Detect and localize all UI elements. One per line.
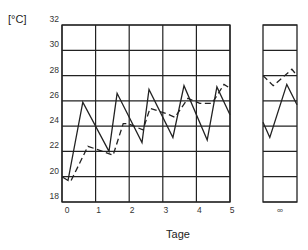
x-tick-infinity: ∞ [277, 205, 283, 215]
x-tick-4: 4 [197, 205, 202, 215]
x-tick-5: 5 [230, 205, 235, 215]
y-tick-24: 24 [50, 115, 60, 125]
series-solid [62, 86, 230, 181]
infinity-panel-grid [263, 25, 297, 202]
x-tick-0: 0 [65, 205, 70, 215]
y-tick-22: 22 [50, 140, 60, 150]
infinity-series-dashed [263, 69, 297, 85]
x-tick-1: 1 [96, 205, 101, 215]
infinity-panel-frame [263, 25, 297, 202]
y-tick-labels: 1820222426283032 [50, 14, 60, 201]
infinity-series-solid [263, 84, 297, 137]
x-axis-label: Tage [166, 228, 190, 240]
x-tick-3: 3 [163, 205, 168, 215]
x-tick-2: 2 [130, 205, 135, 215]
y-tick-20: 20 [50, 166, 60, 176]
y-unit-label: [°C] [8, 13, 26, 25]
y-tick-18: 18 [50, 191, 60, 201]
y-tick-30: 30 [50, 39, 60, 49]
temperature-chart: [°C] 1820222426283032 012345 ∞ Tage [0, 0, 308, 250]
y-tick-32: 32 [50, 14, 60, 24]
x-tick-labels: 012345 [65, 205, 235, 215]
y-tick-28: 28 [50, 65, 60, 75]
series-dashed [71, 84, 230, 180]
y-tick-26: 26 [50, 90, 60, 100]
series-lines [62, 69, 297, 180]
